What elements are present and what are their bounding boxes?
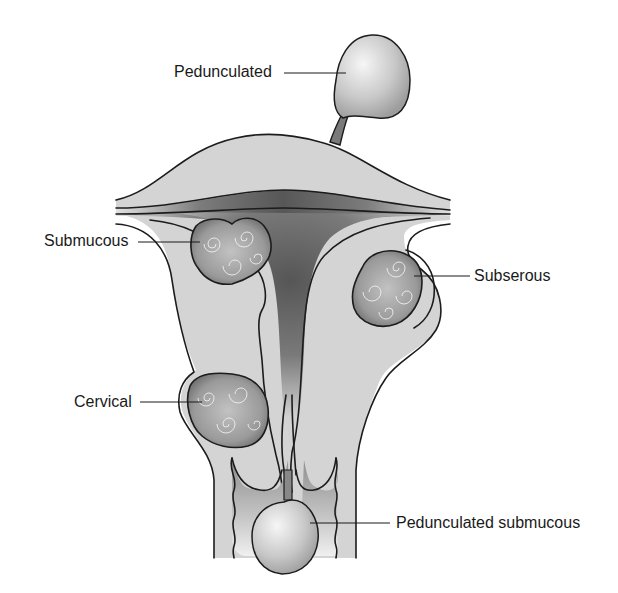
uterine-fibroids-diagram: Pedunculated Submucous Subserous Cervica… — [0, 0, 618, 593]
label-pedunculated-text: Pedunculated — [174, 63, 272, 80]
label-subserous-text: Subserous — [474, 267, 551, 284]
label-cervical-text: Cervical — [74, 393, 132, 410]
label-subserous: Subserous — [414, 267, 551, 284]
label-submucous-text: Submucous — [44, 232, 129, 249]
label-pedunculated: Pedunculated — [174, 63, 346, 80]
label-pedunculated-submucous-text: Pedunculated submucous — [396, 514, 580, 531]
pedunculated-fibroid — [330, 35, 410, 145]
